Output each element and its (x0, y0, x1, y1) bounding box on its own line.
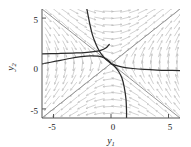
x-tick-label-5: 5 (168, 122, 173, 132)
y-tick-label-5: 5 (34, 15, 39, 25)
phase-portrait-svg: 5 0 -5 -5 0 5 y1 y2 (0, 0, 191, 147)
x-tick-label-0: 0 (111, 122, 116, 132)
x-tick-label-neg5: -5 (48, 122, 56, 132)
y-tick-label-neg5: -5 (31, 106, 39, 116)
phase-portrait-figure: 5 0 -5 -5 0 5 y1 y2 (0, 0, 191, 147)
x-axis-label-subscript: 1 (112, 140, 115, 147)
y-tick-label-0: 0 (34, 64, 39, 74)
